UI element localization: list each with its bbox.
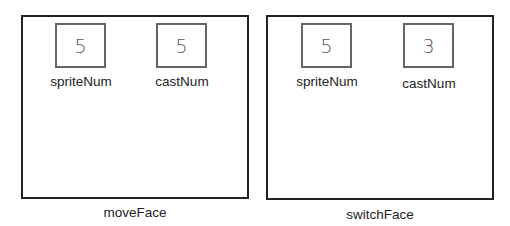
switchface-castnum-box: 3: [403, 23, 454, 68]
moveface-castnum-box: 5: [156, 23, 207, 68]
switchface-caption: switchFace: [260, 207, 500, 222]
moveface-spritenum-label: spriteNum: [31, 74, 131, 89]
moveface-castnum-label: castNum: [132, 74, 232, 89]
moveface-spritenum-box: 5: [55, 23, 106, 68]
switchface-castnum-label: castNum: [379, 76, 479, 91]
switchface-spritenum-label: spriteNum: [277, 74, 377, 89]
switchface-spritenum-box: 5: [301, 23, 352, 68]
moveface-caption: moveFace: [15, 205, 255, 220]
